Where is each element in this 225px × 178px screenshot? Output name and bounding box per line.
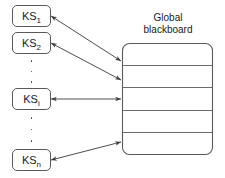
ellipsis-dot — [31, 60, 33, 62]
ks-label-i-sub: i — [38, 99, 40, 108]
ks-label-2: KS2 — [22, 38, 41, 49]
ks-label-n-sub: n — [37, 160, 41, 169]
ks-box-n[interactable]: KSn — [12, 149, 51, 171]
ks-label-1-base: KS — [22, 10, 37, 22]
connector-ks-1 — [51, 16, 121, 61]
blackboard-title-line-1: Global — [127, 12, 209, 24]
ks-label-n-base: KS — [22, 154, 37, 166]
ks-box-i[interactable]: KSi — [12, 88, 51, 110]
ellipsis-dot — [31, 129, 33, 131]
blackboard-title: Global blackboard — [127, 12, 209, 36]
ellipsis-upper — [30, 60, 33, 83]
connector-ks-2 — [51, 43, 121, 80]
ks-label-2-sub: 2 — [37, 43, 41, 52]
ks-label-i-base: KS — [23, 93, 38, 105]
ks-label-1-sub: 1 — [37, 16, 41, 25]
diagram-canvas: Global blackboard KS1 KS2 KSi KSn — [0, 0, 225, 178]
blackboard-title-line-2: blackboard — [127, 24, 209, 36]
ks-box-1[interactable]: KS1 — [12, 5, 51, 27]
ellipsis-lower — [30, 117, 33, 142]
ellipsis-dot — [31, 140, 33, 142]
blackboard-body — [123, 44, 213, 155]
connector-ks-n — [51, 142, 121, 160]
ks-label-n: KSn — [22, 155, 41, 166]
ellipsis-dot — [31, 117, 33, 119]
ks-label-i: KSi — [23, 94, 39, 105]
ks-label-1: KS1 — [22, 11, 41, 22]
ks-box-2[interactable]: KS2 — [12, 32, 51, 54]
ks-label-2-base: KS — [22, 37, 37, 49]
ellipsis-dot — [31, 81, 33, 83]
ellipsis-dot — [31, 71, 33, 73]
